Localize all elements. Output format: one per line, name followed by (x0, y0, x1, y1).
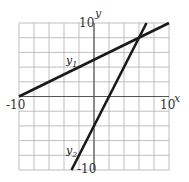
graph-canvas: -10 10 10 -10 x y y1 y2 (0, 0, 189, 182)
y-min-tick-label: -10 (77, 162, 96, 176)
x-min-tick-label: -10 (6, 98, 25, 112)
series-label-y2: y2 (65, 144, 77, 159)
x-axis-label: x (174, 92, 181, 105)
series-label-y1: y1 (65, 54, 77, 69)
x-max-tick-label: 10 (160, 98, 175, 112)
y-max-tick-label: 10 (79, 16, 94, 30)
y-axis-label: y (94, 7, 102, 20)
axes (19, 23, 169, 170)
